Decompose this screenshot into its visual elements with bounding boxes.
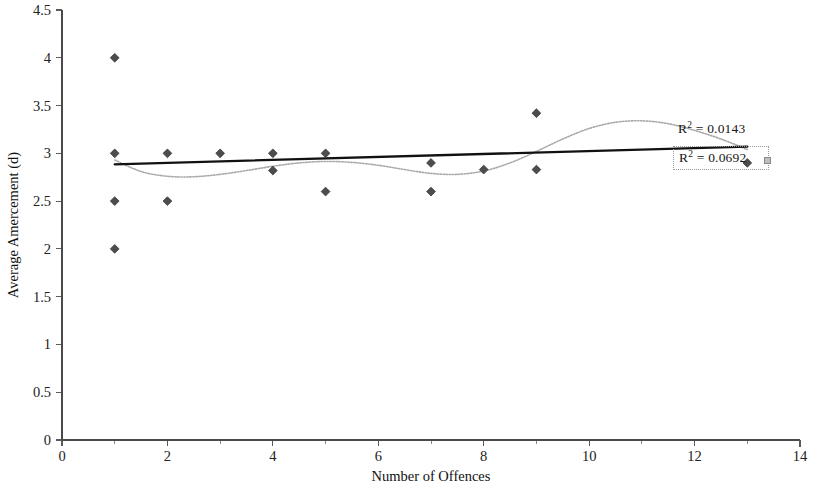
x-tick-label: 12 <box>687 448 702 464</box>
data-point <box>321 149 330 158</box>
data-point <box>268 166 277 175</box>
y-tick-label: 1 <box>44 336 51 352</box>
data-point <box>321 187 330 196</box>
y-tick-label: 3 <box>44 145 51 161</box>
data-point <box>110 149 119 158</box>
y-axis-ticks <box>56 10 62 440</box>
chart-container: 00.511.522.533.544.5 02468101214 Number … <box>0 0 815 492</box>
data-point <box>163 149 172 158</box>
r2-poly-text: R2 = 0.0143 <box>678 121 745 136</box>
x-axis-title: Number of Offences <box>372 468 491 484</box>
y-tick-label: 1.5 <box>33 289 51 305</box>
x-tick-label: 6 <box>375 448 382 464</box>
data-point <box>163 197 172 206</box>
data-point-group <box>110 53 751 253</box>
data-point <box>110 244 119 253</box>
x-tick-label: 0 <box>58 448 65 464</box>
x-axis-ticks <box>62 440 800 446</box>
data-point <box>268 149 277 158</box>
y-tick-label: 0 <box>44 432 51 448</box>
y-axis-title: Average Amercement (d) <box>5 152 22 298</box>
data-point <box>110 197 119 206</box>
r2-linear-text: R2 = 0.0692 <box>679 150 746 165</box>
scatter-plot-svg: 00.511.522.533.544.5 02468101214 Number … <box>0 0 815 492</box>
y-tick-label: 4 <box>44 50 52 66</box>
y-tick-label: 0.5 <box>33 384 51 400</box>
x-tick-label: 8 <box>480 448 487 464</box>
y-tick-label: 2.5 <box>33 193 51 209</box>
x-tick-label: 4 <box>269 448 277 464</box>
x-axis-tick-labels: 02468101214 <box>58 448 808 464</box>
y-axis-tick-labels: 00.511.522.533.544.5 <box>33 2 52 448</box>
data-point <box>110 53 119 62</box>
y-tick-label: 4.5 <box>33 2 51 18</box>
data-point <box>479 165 488 174</box>
y-tick-label: 2 <box>44 241 51 257</box>
data-point <box>532 165 541 174</box>
data-point <box>532 109 541 118</box>
r2-linear-annotation[interactable]: R2 = 0.0692 <box>673 146 769 170</box>
y-tick-label: 3.5 <box>33 98 51 114</box>
data-point <box>427 187 436 196</box>
x-tick-label: 14 <box>793 448 808 464</box>
data-point <box>427 158 436 167</box>
selection-handle[interactable] <box>764 157 771 164</box>
data-point <box>216 149 225 158</box>
r2-polynomial-annotation: R2 = 0.0143 <box>678 121 745 137</box>
x-tick-label: 2 <box>164 448 171 464</box>
x-tick-label: 10 <box>582 448 597 464</box>
